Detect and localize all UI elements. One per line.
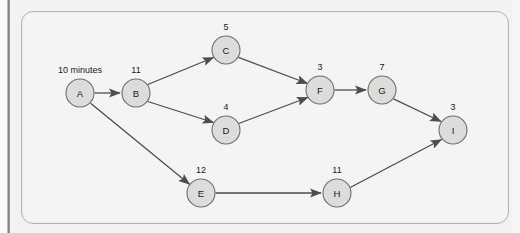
edge-a-to-e xyxy=(91,103,190,184)
node-g-duration: 7 xyxy=(379,62,384,72)
node-c-duration: 5 xyxy=(223,22,228,32)
node-d-duration: 4 xyxy=(223,102,228,112)
node-f-label: F xyxy=(317,85,323,96)
node-i-duration: 3 xyxy=(450,102,455,112)
network-diagram: A 10 minutes B 11 C 5 D 4 E 12 F 3 xyxy=(0,0,520,233)
node-i[interactable]: I 3 xyxy=(439,102,467,144)
node-c[interactable]: C 5 xyxy=(212,22,240,64)
node-i-label: I xyxy=(452,125,455,136)
node-f[interactable]: F 3 xyxy=(306,62,334,104)
node-b[interactable]: B 11 xyxy=(122,65,150,107)
node-d-label: D xyxy=(223,125,230,136)
edge-h-to-i xyxy=(350,140,441,188)
node-f-duration: 3 xyxy=(317,62,322,72)
edge-g-to-i xyxy=(394,99,442,122)
node-d[interactable]: D 4 xyxy=(212,102,240,144)
node-a-duration: 10 minutes xyxy=(58,65,103,75)
node-a[interactable]: A 10 minutes xyxy=(58,65,103,107)
node-g-label: G xyxy=(378,85,385,96)
node-h-label: H xyxy=(334,188,341,199)
edge-d-to-f xyxy=(239,98,308,124)
screenshot-canvas: A 10 minutes B 11 C 5 D 4 E 12 F 3 xyxy=(0,0,520,233)
node-c-label: C xyxy=(223,45,230,56)
edge-b-to-d xyxy=(148,102,214,123)
node-h[interactable]: H 11 xyxy=(323,165,351,207)
edge-b-to-c xyxy=(148,58,214,85)
node-b-label: B xyxy=(133,88,139,99)
node-h-duration: 11 xyxy=(332,165,341,175)
node-e[interactable]: E 12 xyxy=(187,165,215,207)
node-e-duration: 12 xyxy=(196,165,206,175)
node-g[interactable]: G 7 xyxy=(368,62,396,104)
node-e-label: E xyxy=(198,188,204,199)
edge-c-to-f xyxy=(238,57,307,83)
node-a-label: A xyxy=(77,88,84,99)
node-b-duration: 11 xyxy=(131,65,140,75)
